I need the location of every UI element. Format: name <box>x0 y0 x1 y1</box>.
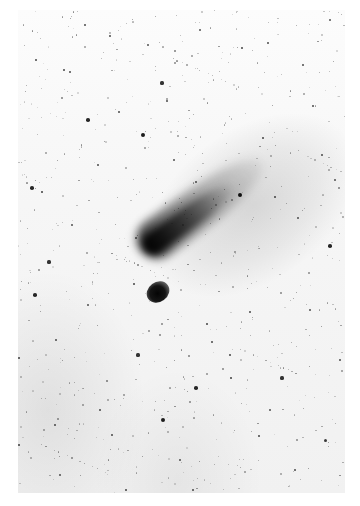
star <box>179 459 181 461</box>
faint-star <box>268 22 269 23</box>
faint-star <box>133 279 134 280</box>
faint-star <box>21 162 22 163</box>
star <box>69 71 71 73</box>
faint-star <box>62 16 63 17</box>
faint-star <box>176 60 177 61</box>
faint-star <box>235 392 236 393</box>
faint-star <box>61 97 63 99</box>
faint-star <box>296 346 297 347</box>
faint-star <box>338 485 339 486</box>
faint-star <box>210 329 211 330</box>
faint-star <box>45 398 46 399</box>
faint-star <box>309 24 310 25</box>
faint-star <box>37 107 38 108</box>
faint-star <box>56 404 57 405</box>
faint-star <box>206 373 208 375</box>
faint-star <box>136 131 137 132</box>
faint-star <box>191 214 192 215</box>
faint-star <box>290 300 291 301</box>
star <box>99 409 101 411</box>
faint-star <box>314 397 315 398</box>
faint-star <box>116 49 117 50</box>
faint-star <box>74 438 75 439</box>
faint-star <box>106 380 108 382</box>
faint-star <box>234 474 236 476</box>
faint-star <box>296 439 298 441</box>
faint-star <box>92 298 93 299</box>
faint-star <box>208 388 209 389</box>
faint-star <box>26 85 27 86</box>
faint-star <box>107 97 109 99</box>
faint-star <box>26 176 27 177</box>
faint-star <box>178 312 179 313</box>
star <box>125 489 128 492</box>
faint-star <box>246 404 247 405</box>
faint-star <box>286 128 288 130</box>
faint-star <box>145 293 146 294</box>
faint-star <box>178 152 179 153</box>
faint-star <box>108 459 109 460</box>
faint-star <box>336 50 338 52</box>
star <box>18 357 20 360</box>
faint-star <box>66 291 67 292</box>
faint-star <box>327 255 328 256</box>
faint-star <box>214 10 215 11</box>
faint-star <box>340 212 342 214</box>
faint-star <box>243 459 244 460</box>
faint-star <box>272 137 273 138</box>
faint-star <box>309 235 310 236</box>
faint-star <box>250 335 251 336</box>
faint-star <box>111 253 112 254</box>
faint-star <box>141 266 142 267</box>
faint-star <box>315 374 316 375</box>
faint-star <box>333 61 334 62</box>
faint-star <box>340 325 341 326</box>
faint-star <box>96 437 97 438</box>
faint-star <box>229 116 230 117</box>
faint-star <box>182 62 183 63</box>
faint-star <box>28 451 30 453</box>
faint-star <box>95 129 96 130</box>
faint-star <box>305 329 306 330</box>
faint-star <box>240 359 242 361</box>
faint-star <box>97 273 98 274</box>
faint-star <box>282 409 284 411</box>
faint-star <box>155 401 156 402</box>
faint-star <box>150 270 151 271</box>
star <box>173 159 175 161</box>
faint-star <box>92 283 93 284</box>
faint-star <box>53 479 54 480</box>
faint-star <box>237 47 238 48</box>
faint-star <box>104 124 105 125</box>
faint-star <box>162 46 164 48</box>
faint-star <box>79 149 81 151</box>
faint-star <box>254 38 256 40</box>
star <box>294 469 296 471</box>
faint-star <box>219 71 220 72</box>
faint-star <box>252 50 253 51</box>
faint-star <box>129 260 131 262</box>
faint-star <box>309 87 310 88</box>
faint-star <box>181 316 182 317</box>
faint-star <box>185 137 187 139</box>
faint-star <box>94 393 95 394</box>
faint-star <box>189 401 191 403</box>
faint-star <box>22 128 23 129</box>
faint-star <box>203 98 205 100</box>
star <box>111 434 113 436</box>
faint-star <box>214 464 215 465</box>
faint-star <box>228 62 229 63</box>
faint-star <box>172 269 173 270</box>
faint-star <box>77 92 79 94</box>
faint-star <box>232 286 234 288</box>
faint-star <box>193 147 194 148</box>
faint-star <box>126 102 127 103</box>
faint-star <box>30 282 31 283</box>
faint-star <box>296 292 297 293</box>
faint-star <box>72 36 73 37</box>
faint-star <box>150 101 151 102</box>
faint-star <box>120 405 121 406</box>
faint-star <box>26 182 28 184</box>
faint-star <box>95 304 97 306</box>
faint-star <box>232 349 233 350</box>
